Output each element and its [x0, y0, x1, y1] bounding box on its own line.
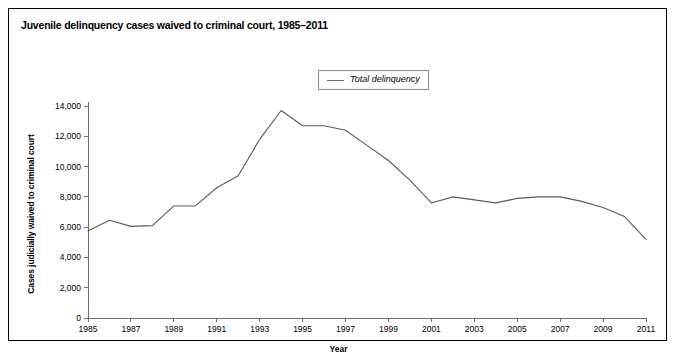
x-axis-tick-label: 1985 — [79, 324, 98, 334]
x-axis-tick-label: 1997 — [336, 324, 355, 334]
y-axis-tick-label: 6,000 — [60, 222, 82, 232]
y-axis-tick-label: 4,000 — [60, 252, 82, 262]
y-axis-tick-label: 10,000 — [55, 162, 81, 172]
x-axis-tick-label: 1993 — [250, 324, 269, 334]
y-axis-tick-label: 0 — [76, 313, 81, 323]
series-line-total-delinquency — [88, 111, 646, 240]
y-axis: 02,0004,0006,0008,00010,00012,00014,000 — [55, 101, 88, 323]
y-axis-tick-label: 12,000 — [55, 131, 81, 141]
x-axis-tick-label: 1995 — [293, 324, 312, 334]
y-axis-tick-label: 14,000 — [55, 101, 81, 111]
x-axis-tick-label: 2001 — [422, 324, 441, 334]
x-axis-tick-label: 1991 — [207, 324, 226, 334]
y-axis-tick-label: 8,000 — [60, 192, 82, 202]
x-axis-tick-label: 2007 — [551, 324, 570, 334]
chart-plot-area: 02,0004,0006,0008,00010,00012,00014,000 … — [9, 9, 668, 342]
x-axis-label: Year — [9, 344, 668, 354]
x-axis-tick-label: 1989 — [164, 324, 183, 334]
y-axis-tick-label: 2,000 — [60, 283, 82, 293]
x-axis-tick-label: 2003 — [465, 324, 484, 334]
x-axis-tick-label: 1987 — [121, 324, 140, 334]
x-axis-tick-label: 2009 — [594, 324, 613, 334]
chart-figure: Juvenile delinquency cases waived to cri… — [8, 8, 667, 341]
x-axis: 1985198719891991199319951997199920012003… — [79, 318, 656, 334]
x-axis-tick-label: 2005 — [508, 324, 527, 334]
x-axis-tick-label: 1999 — [379, 324, 398, 334]
x-axis-tick-label: 2011 — [637, 324, 656, 334]
